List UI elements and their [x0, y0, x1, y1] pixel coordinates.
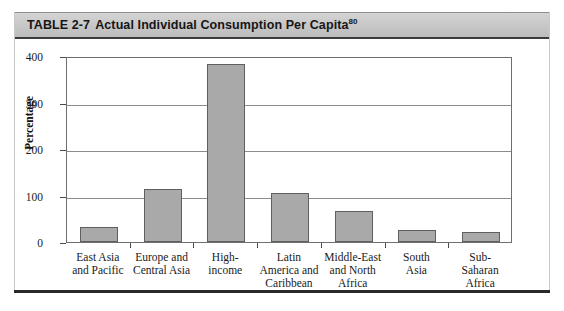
y-axis-tick-label: 200	[3, 144, 43, 156]
x-axis-category-line: Latin	[257, 251, 321, 264]
x-axis-category-line: Caribbean	[257, 277, 321, 290]
x-axis-category-line: East Asia	[66, 251, 130, 264]
x-axis-category-label: East Asiaand Pacific	[66, 251, 130, 277]
y-axis-tick-label: 100	[3, 191, 43, 203]
x-axis-category-label: Europe andCentral Asia	[130, 251, 194, 277]
x-axis-category-line: Asia	[385, 264, 449, 277]
x-axis-tick-mark	[193, 243, 194, 248]
x-axis-category-line: America and	[257, 264, 321, 277]
x-axis-category-label: Sub-SaharanAfrica	[448, 251, 512, 290]
table-figure: TABLE 2-7Actual Individual Consumption P…	[0, 0, 564, 311]
y-axis-tick-mark	[60, 104, 66, 105]
bar	[207, 64, 245, 242]
figure-border-right	[549, 12, 550, 293]
x-axis-category-line: income	[193, 264, 257, 277]
bar	[80, 227, 118, 242]
bar	[335, 211, 373, 242]
figure-border-bottom	[14, 290, 550, 293]
x-axis-category-label: SouthAsia	[385, 251, 449, 277]
y-axis-tick-mark	[60, 150, 66, 151]
y-axis-tick-label: 400	[3, 51, 43, 63]
x-axis-category-line: Africa	[321, 277, 385, 290]
x-axis-tick-mark	[257, 243, 258, 248]
x-axis-category-label: High-income	[193, 251, 257, 277]
gridline	[67, 151, 511, 152]
x-axis-category-line: Middle-East	[321, 251, 385, 264]
page-title: TABLE 2-7Actual Individual Consumption P…	[15, 18, 358, 32]
x-axis-category-line: South	[385, 251, 449, 264]
bar	[271, 193, 309, 242]
gridline	[67, 105, 511, 106]
x-axis-category-line: Europe and	[130, 251, 194, 264]
table-number: TABLE 2-7	[27, 18, 90, 32]
x-axis-category-line: and North	[321, 264, 385, 277]
x-axis-category-line: Africa	[448, 277, 512, 290]
y-axis-tick-label: 0	[3, 237, 43, 249]
table-title-text: Actual Individual Consumption Per Capita	[95, 18, 348, 32]
x-axis-category-line: High-	[193, 251, 257, 264]
x-axis-tick-mark	[130, 243, 131, 248]
bar	[462, 232, 500, 242]
x-axis-category-line: Central Asia	[130, 264, 194, 277]
x-axis-category-line: Saharan	[448, 264, 512, 277]
x-axis-category-label: Middle-Eastand NorthAfrica	[321, 251, 385, 290]
bar	[144, 189, 182, 242]
y-axis-tick-mark	[60, 243, 66, 244]
x-axis-tick-mark	[321, 243, 322, 248]
y-axis-tick-label: 300	[3, 98, 43, 110]
x-axis-category-line: Sub-	[448, 251, 512, 264]
footnote-marker: 80	[349, 17, 358, 26]
bar	[398, 230, 436, 242]
table-title-bar: TABLE 2-7Actual Individual Consumption P…	[15, 13, 549, 39]
x-axis-category-label: LatinAmerica andCaribbean	[257, 251, 321, 290]
plot-area	[66, 57, 512, 243]
x-axis-category-line: and Pacific	[66, 264, 130, 277]
y-axis-tick-mark	[60, 197, 66, 198]
y-axis-tick-mark	[60, 57, 66, 58]
x-axis-tick-mark	[448, 243, 449, 248]
x-axis-tick-mark	[385, 243, 386, 248]
